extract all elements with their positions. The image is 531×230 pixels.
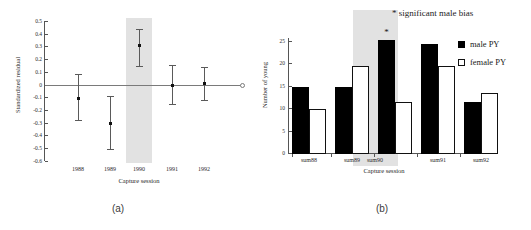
- y-tick-label: 15: [268, 83, 285, 89]
- y-tick: [289, 41, 292, 42]
- y-tick: [289, 63, 292, 64]
- bar-male-sum92: [464, 102, 481, 154]
- y-tick: [45, 110, 48, 111]
- x-axis-title: Capture session: [94, 177, 184, 184]
- data-point-1992: [203, 82, 206, 85]
- x-axis-title: Capture session: [339, 167, 429, 174]
- data-point-1989: [109, 122, 112, 125]
- y-tick-label: 0: [268, 150, 285, 156]
- bar-female-sum91: [438, 66, 455, 154]
- y-tick-label: -0.1: [22, 94, 42, 100]
- x-tick-label-sum92: sum92: [459, 157, 503, 164]
- bar-male-sum90: [378, 40, 395, 155]
- data-point-1988: [77, 97, 80, 100]
- y-tick-label: -0.3: [22, 120, 42, 126]
- bar-female-sum90: [395, 102, 412, 154]
- panel-b-caption: (b): [362, 203, 402, 214]
- panel-a: 0.5 0.4 0.3 0.2 0.1 0 -0.1 -0.2 -0.3 -0.…: [0, 0, 266, 230]
- legend-swatch-male-icon: [458, 41, 465, 48]
- y-tick: [45, 21, 48, 22]
- y-tick-label: 0: [22, 82, 42, 88]
- y-tick: [45, 34, 48, 35]
- axis-end-marker: [240, 83, 245, 88]
- y-axis-line: [44, 21, 45, 161]
- y-tick-label: 0.3: [22, 43, 42, 49]
- error-bar-cap-upper-1990: [136, 29, 143, 30]
- y-tick: [45, 59, 48, 60]
- error-bar-cap-upper-1992: [201, 67, 208, 68]
- y-tick: [45, 97, 48, 98]
- bar-male-sum89: [335, 87, 352, 154]
- y-tick-label: -0.5: [22, 145, 42, 151]
- x-tick-label-1992: 1992: [188, 166, 220, 173]
- y-tick-label: -0.6: [22, 158, 42, 164]
- y-tick: [45, 148, 48, 149]
- y-tick-label: 0.1: [22, 69, 42, 75]
- data-point-1991: [171, 84, 174, 87]
- bar-male-sum88: [292, 87, 309, 154]
- y-tick-label: -0.4: [22, 132, 42, 138]
- bar-female-sum89: [352, 66, 369, 154]
- bar-male-sum91: [421, 44, 438, 154]
- y-tick: [45, 135, 48, 136]
- y-tick-label: 10: [268, 105, 285, 111]
- zero-reference-line: [45, 85, 243, 86]
- error-bar-cap-lower-1992: [201, 100, 208, 101]
- y-tick: [45, 46, 48, 47]
- y-axis-title: Standardized residual: [14, 25, 21, 145]
- bar-female-sum88: [309, 109, 326, 154]
- figure-container: 0.5 0.4 0.3 0.2 0.1 0 -0.1 -0.2 -0.3 -0.…: [0, 0, 531, 230]
- legend-swatch-female-icon: [458, 59, 465, 66]
- significance-note: * significant male bias: [392, 8, 473, 18]
- error-bar-cap-lower-1988: [75, 120, 82, 121]
- x-tick-label-1988: 1988: [62, 166, 94, 173]
- y-axis-line: [288, 38, 289, 153]
- error-bar-1990: [139, 29, 140, 66]
- x-tick-label-1989: 1989: [94, 166, 126, 173]
- error-bar-cap-lower-1991: [169, 104, 176, 105]
- legend-label-male: male PY: [470, 38, 500, 51]
- bar-female-sum92: [481, 93, 498, 154]
- legend-label-female: female PY: [470, 56, 506, 69]
- y-tick-label: 0.5: [22, 18, 42, 24]
- error-bar-cap-upper-1989: [107, 96, 114, 97]
- y-axis-title: Number of young: [261, 30, 268, 140]
- x-tick-label-sum90: sum90: [353, 157, 397, 164]
- error-bar-cap-lower-1989: [107, 149, 114, 150]
- x-tick-label-1991: 1991: [156, 166, 188, 173]
- y-tick: [45, 72, 48, 73]
- y-tick-label: 0.4: [22, 31, 42, 37]
- y-tick: [45, 161, 48, 162]
- panel-b: 25 20 15 10 5 0 * sum88 sum89 sum90: [265, 0, 531, 230]
- y-tick: [45, 123, 48, 124]
- x-tick-label-sum91: sum91: [416, 157, 460, 164]
- error-bar-cap-lower-1990: [136, 66, 143, 67]
- x-tick-label-1990: 1990: [123, 166, 155, 173]
- error-bar-cap-upper-1988: [75, 74, 82, 75]
- y-tick-label: 25: [268, 38, 285, 44]
- panel-a-caption: (a): [98, 203, 138, 214]
- y-tick-label: 0.2: [22, 56, 42, 62]
- y-tick-label: 20: [268, 60, 285, 66]
- error-bar-cap-upper-1991: [169, 65, 176, 66]
- significance-star: *: [378, 28, 395, 37]
- x-tick-label-sum88: sum88: [287, 157, 331, 164]
- y-tick-label: 5: [268, 128, 285, 134]
- y-tick-label: -0.2: [22, 107, 42, 113]
- data-point-1990: [138, 44, 141, 47]
